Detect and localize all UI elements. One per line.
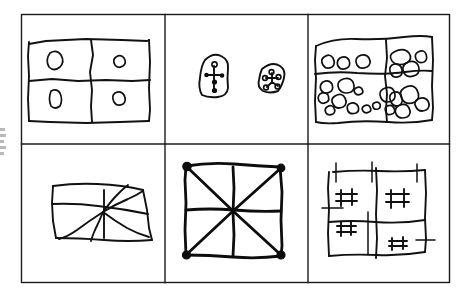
panel-bottom-middle bbox=[183, 162, 286, 259]
hand-drawn-figure bbox=[0, 0, 467, 298]
figure-root: hand-drawn rectangle divided into four q… bbox=[0, 0, 467, 298]
